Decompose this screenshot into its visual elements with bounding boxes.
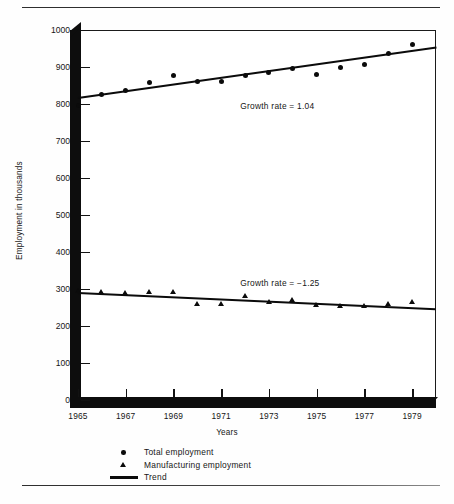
data-point — [338, 65, 343, 70]
x-axis-slab — [70, 400, 436, 408]
legend-item-manufacturing-employment: Manufacturing employment — [110, 459, 251, 472]
data-point — [361, 303, 367, 308]
data-point — [98, 289, 104, 294]
chart-legend: Total employment Manufacturing employmen… — [110, 446, 251, 484]
legend-item-total-employment: Total employment — [110, 446, 251, 459]
x-axis-title: Years — [0, 428, 454, 437]
data-point — [385, 301, 391, 306]
data-point — [289, 297, 295, 302]
x-tick-label: 1979 — [392, 411, 432, 421]
data-point — [386, 51, 391, 56]
x-tick-label: 1971 — [201, 411, 241, 421]
y-tick-label: 500 — [40, 210, 70, 220]
trend-line — [78, 47, 436, 100]
data-point — [171, 73, 176, 78]
triangle-marker-icon — [110, 459, 144, 471]
legend-label: Trend — [144, 472, 167, 482]
figure-page: 01002003004005006007008009001000 1965196… — [0, 0, 454, 504]
legend-item-trend: Trend — [110, 471, 251, 484]
y-tick-label: 100 — [40, 358, 70, 368]
data-point — [362, 62, 367, 67]
annotation-manufacturing-growth-rate: Growth rate = −1.25 — [240, 278, 319, 288]
data-point — [218, 301, 224, 306]
y-axis-title: Employment in thousands — [15, 156, 24, 266]
data-point — [194, 301, 200, 306]
data-layer — [78, 30, 436, 400]
data-point — [195, 79, 200, 84]
annotation-total-growth-rate: Growth rate = 1.04 — [240, 101, 314, 111]
data-point — [219, 79, 224, 84]
data-point — [122, 290, 128, 295]
data-point — [266, 299, 272, 304]
line-marker-icon — [110, 471, 144, 483]
y-tick-label: 800 — [40, 99, 70, 109]
x-tick-label: 1969 — [153, 411, 193, 421]
data-point — [242, 293, 248, 298]
y-tick-label: 300 — [40, 284, 70, 294]
data-point — [313, 302, 319, 307]
x-tick-label: 1977 — [344, 411, 384, 421]
data-point — [290, 66, 295, 71]
y-tick-label: 200 — [40, 321, 70, 331]
data-point — [243, 73, 248, 78]
trend-line — [78, 292, 436, 311]
y-tick-label: 700 — [40, 136, 70, 146]
data-point — [314, 72, 319, 77]
data-point — [99, 92, 104, 97]
data-point — [170, 289, 176, 294]
data-point — [147, 80, 152, 85]
data-point — [409, 299, 415, 304]
x-tick-label: 1967 — [106, 411, 146, 421]
x-tick-label: 1975 — [297, 411, 337, 421]
data-point — [75, 288, 81, 293]
data-point — [337, 303, 343, 308]
data-point — [266, 70, 271, 75]
y-tick-label: 0 — [40, 395, 70, 405]
y-tick-label: 1000 — [40, 25, 70, 35]
circle-marker-icon — [110, 446, 144, 458]
employment-trend-chart: 01002003004005006007008009001000 1965196… — [0, 0, 454, 504]
legend-label: Total employment — [144, 447, 214, 457]
y-tick-label: 900 — [40, 62, 70, 72]
x-tick-label: 1965 — [58, 411, 98, 421]
data-point — [76, 103, 81, 108]
legend-label: Manufacturing employment — [144, 460, 251, 470]
y-tick — [81, 400, 90, 401]
y-axis-slab — [70, 30, 78, 406]
y-tick-label: 400 — [40, 247, 70, 257]
data-point — [146, 289, 152, 294]
y-tick-label: 600 — [40, 173, 70, 183]
x-tick-label: 1973 — [249, 411, 289, 421]
data-point — [410, 42, 415, 47]
